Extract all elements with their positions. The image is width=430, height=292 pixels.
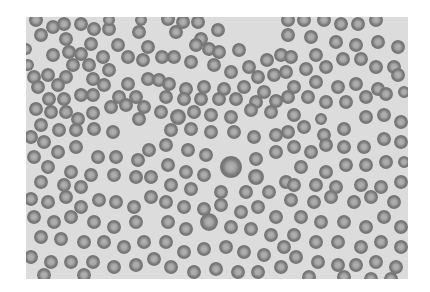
red-blood-cell xyxy=(104,100,118,114)
red-blood-cell xyxy=(319,165,333,179)
red-blood-cell xyxy=(311,255,325,269)
red-blood-cell xyxy=(57,17,71,31)
red-blood-cell xyxy=(34,230,48,244)
red-blood-cell xyxy=(354,52,368,66)
red-blood-cell xyxy=(111,38,125,52)
red-blood-cell xyxy=(197,242,211,256)
red-blood-cell xyxy=(329,35,343,49)
red-blood-cell xyxy=(86,88,100,102)
red-blood-cell xyxy=(319,60,333,74)
red-blood-cell xyxy=(102,63,116,77)
red-blood-cell xyxy=(161,158,175,172)
red-blood-cell xyxy=(106,125,120,139)
red-blood-cell xyxy=(74,88,88,102)
blood-smear-photo xyxy=(26,17,408,279)
red-blood-cell xyxy=(66,58,80,72)
red-blood-cell xyxy=(284,50,298,64)
red-blood-cell xyxy=(200,213,218,231)
red-blood-cell xyxy=(69,123,83,137)
red-blood-cell xyxy=(394,175,408,189)
red-blood-cell xyxy=(331,80,345,94)
red-blood-cell xyxy=(169,25,183,39)
red-blood-cell xyxy=(315,113,327,125)
red-blood-cell xyxy=(369,255,383,269)
red-blood-cell xyxy=(177,92,191,106)
red-blood-cell xyxy=(155,50,169,64)
red-blood-cell xyxy=(319,138,333,152)
red-blood-cell xyxy=(287,140,301,154)
red-blood-cell xyxy=(187,105,201,119)
red-blood-cell xyxy=(387,195,401,209)
red-blood-cell xyxy=(229,92,243,106)
red-blood-cell xyxy=(337,140,351,154)
red-blood-cell xyxy=(42,92,56,106)
red-blood-cell xyxy=(269,210,283,224)
red-blood-cell xyxy=(84,37,98,51)
red-blood-cell xyxy=(132,112,146,126)
red-blood-cell xyxy=(29,102,43,116)
red-blood-cell xyxy=(394,240,408,254)
red-blood-cell xyxy=(137,100,151,114)
red-blood-cell xyxy=(159,138,173,152)
red-blood-cell xyxy=(34,175,48,189)
red-blood-cell xyxy=(107,168,121,182)
red-blood-cell xyxy=(309,75,323,89)
red-blood-cell xyxy=(92,193,106,207)
red-blood-cell xyxy=(136,53,150,67)
red-blood-cell xyxy=(307,195,321,209)
red-blood-cell xyxy=(277,240,291,254)
red-blood-cell xyxy=(257,248,271,262)
red-blood-cell xyxy=(251,200,265,214)
red-blood-cell xyxy=(319,95,333,109)
red-blood-cell xyxy=(41,68,55,82)
red-blood-cell xyxy=(51,145,65,159)
red-blood-cell xyxy=(164,123,178,137)
red-blood-cell xyxy=(121,77,135,91)
red-blood-cell xyxy=(181,143,195,157)
red-blood-cell xyxy=(144,170,158,184)
red-blood-cell xyxy=(51,78,65,92)
red-blood-cell xyxy=(244,103,258,117)
red-blood-cell xyxy=(86,106,100,120)
red-blood-cell xyxy=(31,80,45,94)
red-blood-cell xyxy=(204,108,218,122)
red-blood-cell xyxy=(212,45,226,59)
red-blood-cell xyxy=(87,122,101,136)
red-blood-cell xyxy=(57,178,71,192)
red-blood-cell xyxy=(304,30,318,44)
red-blood-cell xyxy=(109,195,123,209)
red-blood-cell xyxy=(309,178,323,192)
red-blood-cell xyxy=(336,52,350,66)
red-blood-cell xyxy=(207,58,221,72)
red-blood-cell xyxy=(220,156,242,178)
red-blood-cell xyxy=(107,260,121,274)
red-blood-cell xyxy=(170,109,186,125)
red-blood-cell xyxy=(121,50,135,64)
red-blood-cell xyxy=(309,235,323,249)
red-blood-cell xyxy=(187,265,201,279)
red-blood-cell xyxy=(281,28,295,42)
red-blood-cell xyxy=(27,150,41,164)
red-blood-cell xyxy=(37,135,51,149)
red-blood-cell xyxy=(260,53,274,67)
red-blood-cell xyxy=(301,90,315,104)
red-blood-cell xyxy=(137,235,151,249)
red-blood-cell xyxy=(369,60,383,74)
red-blood-cell xyxy=(64,165,78,179)
red-blood-cell xyxy=(264,228,278,242)
red-blood-cell xyxy=(27,210,41,224)
red-blood-cell xyxy=(224,220,238,234)
red-blood-cell xyxy=(62,45,76,59)
red-blood-cell xyxy=(248,169,264,185)
red-blood-cell xyxy=(339,95,353,109)
red-blood-cell xyxy=(57,92,71,106)
red-blood-cell xyxy=(214,185,228,199)
red-blood-cell xyxy=(224,65,238,79)
red-blood-cell xyxy=(297,120,311,134)
red-blood-cell xyxy=(379,87,393,101)
red-blood-cell xyxy=(162,77,176,91)
red-blood-cell xyxy=(96,50,110,64)
red-blood-cell xyxy=(351,17,365,31)
red-blood-cell xyxy=(119,98,133,112)
red-blood-cell xyxy=(159,235,173,249)
